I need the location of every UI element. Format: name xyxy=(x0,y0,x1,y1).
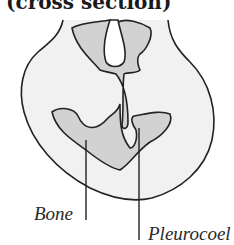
bone-label: Bone xyxy=(34,203,73,225)
pleurocoel-label: Pleurocoel xyxy=(148,223,231,245)
cross-section-diagram: (cross section) Bone Pleurocoel xyxy=(0,0,234,245)
